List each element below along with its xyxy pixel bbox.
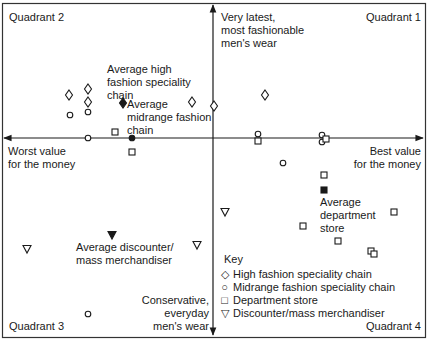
square-open-marker: [129, 149, 135, 155]
circle-open-marker: [85, 311, 91, 317]
circle-open-marker: [280, 160, 286, 166]
legend-title: Key: [224, 253, 243, 266]
legend-item: ▽Discounter/mass merchandiser: [219, 307, 385, 320]
triangle-down-open-icon: ▽: [219, 307, 230, 320]
legend-item: ◇High fashion speciality chain: [219, 268, 372, 281]
circle-open-marker: [85, 109, 91, 115]
square-open-marker: [391, 209, 397, 215]
square-open-marker: [335, 238, 341, 244]
diamond-open-marker: [85, 97, 92, 107]
circle-open-marker: [85, 135, 91, 141]
diamond-open-marker: [66, 90, 73, 100]
square-open-marker: [112, 129, 118, 135]
circle-open-icon: ○: [219, 281, 230, 294]
triangle-down-open-marker: [23, 246, 31, 254]
diamond-open-icon: ◇: [219, 268, 230, 281]
square-filled-marker: [321, 187, 327, 193]
circle-open-marker: [67, 112, 73, 118]
diamond-open-marker: [189, 97, 196, 107]
legend-item: ○Midrange fashion speciality chain: [219, 281, 395, 294]
quadrant-2-label: Quadrant 2: [9, 11, 64, 24]
square-open-marker: [300, 223, 306, 229]
quadrant-4-label: Quadrant 4: [366, 320, 421, 333]
diamond-open-marker: [85, 84, 92, 94]
legend-item: □Department store: [219, 294, 318, 307]
square-open-marker: [321, 172, 327, 178]
quadrant-3-label: Quadrant 3: [9, 320, 64, 333]
diamond-open-marker: [211, 101, 218, 111]
square-open-marker: [371, 251, 377, 257]
triangle-down-filled-marker: [108, 232, 116, 240]
circle-open-marker: [255, 131, 261, 137]
diamond-open-marker: [262, 90, 269, 100]
triangle-down-open-marker: [193, 242, 201, 250]
square-open-icon: □: [219, 294, 230, 307]
triangle-down-open-marker: [221, 209, 229, 217]
square-open-marker: [323, 136, 329, 142]
quadrant-1-label: Quadrant 1: [366, 11, 421, 24]
square-open-marker: [255, 138, 261, 144]
